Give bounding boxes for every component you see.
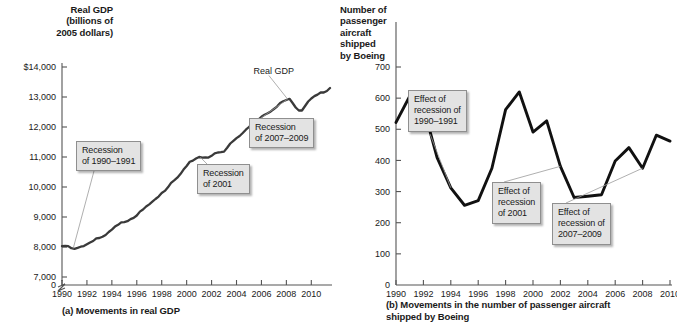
svg-text:1998: 1998	[152, 289, 172, 299]
svg-text:12,000: 12,000	[28, 122, 56, 132]
callout-effect-recession-1990-1991: Effect of recession of 1990–1991	[408, 90, 467, 132]
svg-text:200: 200	[375, 218, 390, 228]
svg-text:400: 400	[375, 156, 390, 166]
svg-text:10,000: 10,000	[28, 182, 56, 192]
svg-text:1996: 1996	[127, 289, 147, 299]
svg-text:1990: 1990	[52, 289, 72, 299]
svg-text:2004: 2004	[226, 289, 246, 299]
svg-text:2010: 2010	[301, 289, 321, 299]
svg-text:1992: 1992	[77, 289, 97, 299]
callout-effect-recession-2007-2009: Effect of recession of 2007–2009	[552, 203, 611, 245]
svg-text:2006: 2006	[251, 289, 271, 299]
svg-text:13,000: 13,000	[28, 92, 56, 102]
callout-recession-2001: Recession of 2001	[197, 164, 250, 194]
svg-text:2000: 2000	[177, 289, 197, 299]
svg-text:2004: 2004	[578, 289, 598, 299]
panel-boeing-shipments: Number of passenger aircraft shipped by …	[340, 0, 677, 333]
svg-text:11,000: 11,000	[29, 152, 56, 162]
svg-text:1996: 1996	[468, 289, 488, 299]
svg-text:2008: 2008	[633, 289, 653, 299]
svg-text:2010: 2010	[660, 289, 677, 299]
svg-text:100: 100	[375, 249, 390, 259]
svg-text:1992: 1992	[413, 289, 433, 299]
svg-text:2000: 2000	[523, 289, 543, 299]
svg-text:8,000: 8,000	[33, 242, 56, 252]
callout-recession-1990-1991: Recession of 1990–1991	[76, 141, 141, 171]
svg-text:300: 300	[375, 187, 390, 197]
chart-boeing-shipments: 0100200300400500600700199019921994199619…	[340, 0, 677, 300]
svg-text:700: 700	[375, 62, 390, 72]
svg-text:1998: 1998	[496, 289, 516, 299]
panel-caption-b: (b) Movements in the number of passenger…	[386, 299, 676, 322]
svg-text:2002: 2002	[202, 289, 222, 299]
panel-caption-a: (a) Movements in real GDP	[62, 305, 322, 317]
svg-text:1990: 1990	[386, 289, 406, 299]
svg-text:1994: 1994	[441, 289, 461, 299]
series-label-real-gdp: Real GDP	[253, 66, 294, 76]
svg-text:600: 600	[375, 93, 390, 103]
svg-text:2002: 2002	[550, 289, 570, 299]
panel-real-gdp: Real GDP (billions of 2005 dollars) 07,0…	[0, 0, 340, 333]
svg-text:2006: 2006	[605, 289, 625, 299]
chart-real-gdp: 07,0008,0009,00010,00011,00012,00013,000…	[0, 0, 340, 300]
svg-text:$14,000: $14,000	[23, 62, 56, 72]
svg-text:9,000: 9,000	[33, 212, 56, 222]
svg-text:500: 500	[375, 124, 390, 134]
svg-text:1994: 1994	[102, 289, 122, 299]
svg-text:2008: 2008	[276, 289, 296, 299]
figure-two-panel-recession-charts: Real GDP (billions of 2005 dollars) 07,0…	[0, 0, 677, 333]
callout-effect-recession-2001: Effect of recession of 2001	[492, 182, 541, 224]
callout-recession-2007-2009: Recession of 2007–2009	[249, 118, 314, 148]
svg-text:7,000: 7,000	[33, 272, 56, 282]
